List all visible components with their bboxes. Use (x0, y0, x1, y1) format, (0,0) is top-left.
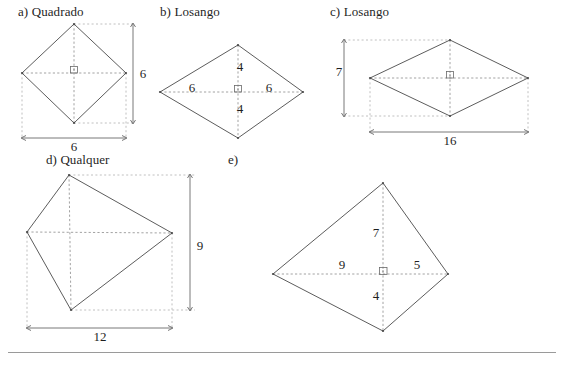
figure-b-label-upper: 4 (234, 59, 246, 75)
vertex-top-a (73, 23, 75, 25)
right-angle-dot-e (382, 270, 383, 271)
figure-c-caption: c) Losango (330, 4, 389, 20)
vertex-top-c (449, 39, 451, 41)
vertex-top-e (382, 182, 384, 184)
footer-divider (8, 352, 556, 353)
figure-a-dimension-vertical: 6 (136, 66, 150, 82)
quadrilateral-outline-d (27, 175, 172, 310)
vertex-top-d (68, 174, 70, 176)
figure-e-label-right: 5 (410, 257, 424, 273)
vertex-right-e (447, 273, 449, 275)
right-angle-dot-a (73, 69, 74, 70)
vertex-right-c (527, 77, 529, 79)
vertex-bottom-d (70, 309, 72, 311)
vertex-left-e (272, 273, 274, 275)
vertex-left-b (159, 91, 161, 93)
vertex-bottom-e (382, 330, 384, 332)
figure-d-drawing (0, 160, 210, 345)
vertex-bottom-b (237, 137, 239, 139)
vertex-bottom-a (73, 122, 75, 124)
figure-c-drawing (320, 20, 565, 150)
figure-e-label-upper: 7 (369, 225, 383, 241)
vertex-right-a (125, 72, 127, 74)
vertex-right-d (171, 232, 173, 234)
figure-d-dimension-horizontal: 12 (90, 329, 110, 345)
diagonal-horizontal-d (27, 232, 172, 233)
figure-c-dimension-horizontal: 16 (440, 133, 460, 149)
rhombus-outline-b (160, 45, 303, 138)
figure-e-label-left: 9 (335, 257, 349, 273)
right-angle-dot-b (237, 88, 238, 89)
figure-d-dimension-vertical: 9 (193, 238, 207, 254)
figure-b-drawing (150, 20, 315, 145)
vertex-left-c (369, 77, 371, 79)
vertex-left-d (26, 231, 28, 233)
figure-a-drawing (0, 0, 150, 150)
figure-b-label-right: 6 (263, 80, 275, 96)
figure-b-label-lower: 4 (234, 101, 246, 117)
figure-e-drawing (260, 175, 460, 335)
figure-b-caption: b) Losango (160, 4, 220, 20)
figure-c-dimension-vertical: 7 (332, 64, 346, 80)
vertex-top-b (237, 44, 239, 46)
vertex-right-b (302, 91, 304, 93)
diagonal-vertical-d (69, 175, 71, 310)
diagram-page: a) Quadrado 6 6 b) Losango (0, 0, 565, 372)
figure-e-label-lower: 4 (369, 288, 383, 304)
figure-b-label-left: 6 (186, 80, 198, 96)
figure-e-caption: e) (228, 152, 238, 168)
vertex-left-a (21, 72, 23, 74)
right-angle-dot-c (449, 74, 450, 75)
vertex-bottom-c (449, 115, 451, 117)
